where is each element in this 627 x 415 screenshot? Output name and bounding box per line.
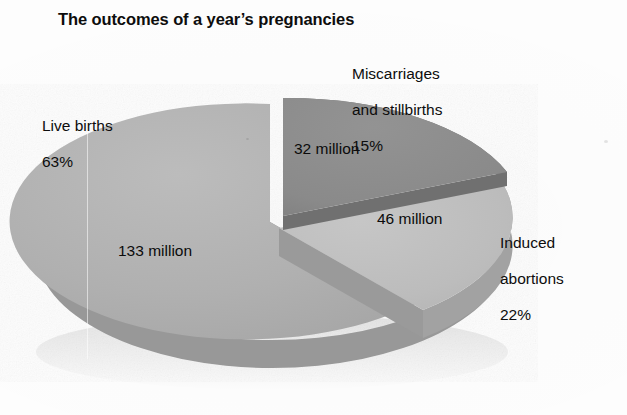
chart-title: The outcomes of a year’s pregnancies — [58, 10, 578, 29]
pie-chart-graphic — [0, 0, 627, 415]
callout-miscarriages-line1: Miscarriages — [352, 65, 440, 82]
callout-induced-abortions: Induced abortions 22% — [500, 216, 564, 342]
slice-value-miscarriages: 32 million — [294, 141, 359, 157]
callout-live-births-percent: 63% — [42, 153, 113, 171]
slice-value-live-births: 133 million — [118, 243, 192, 259]
callout-induced-line1: Induced — [500, 234, 555, 251]
callout-live-births: Live births 63% — [42, 99, 113, 189]
slice-value-induced-abortions: 46 million — [377, 211, 442, 227]
pie-chart-figure: The outcomes of a year’s pregnancies Mis… — [0, 0, 627, 415]
callout-induced-line2: abortions — [500, 270, 564, 287]
callout-miscarriages-and-stillbirths: Miscarriages and stillbirths 15% — [352, 47, 442, 173]
callout-miscarriages-line2: and stillbirths — [352, 101, 442, 118]
callout-live-births-line1: Live births — [42, 117, 113, 134]
callout-induced-percent: 22% — [500, 306, 564, 324]
callout-miscarriages-percent: 15% — [352, 137, 442, 155]
